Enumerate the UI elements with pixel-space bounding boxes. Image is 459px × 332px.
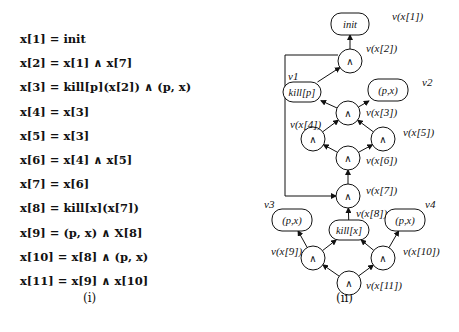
node-label: v(x[1]) — [392, 10, 423, 23]
node-x3: ∧ — [336, 101, 360, 125]
node-label: v(x[10]) — [403, 245, 440, 258]
node-label: v(x[4]) — [290, 118, 321, 131]
node-text: ∧ — [309, 134, 316, 145]
node-text: (p,x) — [395, 215, 415, 227]
node-x1: init — [331, 13, 369, 35]
node-v4: (p,x) — [385, 209, 425, 231]
node-label: v3 — [264, 198, 275, 210]
node-x4: ∧ — [301, 127, 325, 151]
edge-x10-x8 — [361, 240, 374, 250]
node-text: init — [343, 19, 358, 30]
node-text: ∧ — [344, 153, 351, 164]
edge-x11-x9 — [323, 265, 339, 276]
node-label: v(x[2]) — [366, 42, 397, 55]
edge-x6-x4 — [324, 145, 338, 153]
node-x10: ∧ — [371, 246, 395, 270]
node-x6: ∧ — [336, 146, 360, 170]
node-x2: ∧ — [338, 49, 362, 73]
edge-x9-x8 — [322, 240, 336, 251]
node-label: v1 — [288, 70, 298, 82]
node-label: v(x[3]) — [366, 106, 397, 119]
node-text: ∧ — [345, 278, 352, 289]
node-x8: kill[x] — [329, 220, 369, 240]
node-text: (p,x) — [282, 215, 302, 227]
node-text: ∧ — [379, 134, 386, 145]
node-text: ∧ — [344, 108, 351, 119]
node-text: ∧ — [379, 253, 386, 264]
edge-x6-x5 — [359, 145, 373, 153]
node-label: v(x[6]) — [366, 154, 397, 167]
node-x11: ∧ — [337, 271, 361, 295]
node-label: v(x[11]) — [366, 279, 402, 292]
edge-x4-x3 — [323, 120, 339, 132]
node-x9: ∧ — [301, 246, 325, 270]
node-text: kill[p] — [289, 87, 316, 98]
node-label: v(x[7]) — [366, 184, 397, 197]
node-label: v2 — [422, 76, 433, 88]
edge-x5-x3 — [358, 120, 374, 132]
node-label: v(x[5]) — [403, 126, 434, 139]
node-text: kill[x] — [336, 225, 362, 236]
node-x7: ∧ — [336, 184, 360, 208]
node-label: v4 — [425, 198, 436, 210]
node-text: ∧ — [346, 56, 353, 67]
node-label: v(x[9]) — [271, 245, 302, 258]
edge-x11-x10 — [359, 265, 374, 276]
node-v2: (p,x) — [368, 79, 408, 101]
node-x5: ∧ — [371, 127, 395, 151]
node-label: v(x[8]) — [356, 207, 387, 220]
node-v3: (p,x) — [272, 209, 312, 231]
node-text: ∧ — [344, 191, 351, 202]
node-text: (p,x) — [378, 85, 398, 97]
node-text: ∧ — [309, 253, 316, 264]
edge-x10-v4 — [389, 231, 399, 248]
dependency-graph: initv(x[1])∧v(x[2])kill[p]v1(p,x)v2∧v(x[… — [0, 0, 459, 332]
node-v1: kill[p] — [283, 82, 321, 102]
edge-x3-v1 — [321, 101, 337, 108]
edge-v1-x2 — [317, 68, 339, 82]
